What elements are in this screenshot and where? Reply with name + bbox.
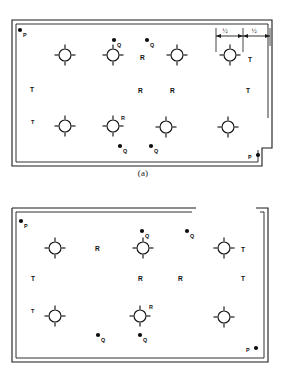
- point-dot-q[interactable]: [112, 38, 116, 42]
- point-label-t: T: [241, 275, 245, 282]
- point-label-t: T: [246, 87, 250, 94]
- panel-a-drawing: ½ ½: [0, 0, 286, 192]
- point-label-r: R: [138, 275, 143, 282]
- sprinkler-row-bottom: [45, 306, 235, 328]
- point-label-q: Q: [154, 148, 158, 154]
- point-label-r: R: [95, 245, 100, 252]
- sprinkler-head[interactable]: [45, 238, 66, 259]
- point-label-q: Q: [143, 337, 147, 343]
- point-dot-q[interactable]: [96, 333, 100, 337]
- point-label-q: Q: [101, 337, 105, 343]
- point-dot-p[interactable]: [256, 153, 260, 157]
- point-label-r: R: [170, 87, 175, 94]
- point-dot-p[interactable]: [18, 28, 22, 32]
- dimension-group: ½ ½: [216, 27, 270, 52]
- point-label-r: R: [138, 87, 143, 94]
- sprinkler-head[interactable]: [133, 238, 154, 259]
- point-label-t: T: [31, 119, 35, 125]
- sprinkler-head[interactable]: [218, 117, 239, 138]
- point-label-q: Q: [117, 42, 121, 48]
- point-label-p: P: [248, 154, 252, 160]
- sprinkler-head[interactable]: [214, 307, 235, 328]
- point-label-q: Q: [123, 148, 127, 154]
- point-label-p: P: [246, 347, 250, 353]
- point-label-q: Q: [145, 233, 149, 239]
- sprinkler-row-bottom: [55, 116, 239, 138]
- point-dot-p[interactable]: [254, 346, 258, 350]
- panel-b-drawing-main: P Q Q R T T R R T T R Q Q P: [0, 190, 286, 384]
- panel-b: P Q Q R T T R R T T R Q Q P (b): [0, 190, 286, 384]
- dimension-label-left: ½: [222, 27, 227, 35]
- panel-a: ½ ½: [0, 0, 286, 192]
- point-dot-q[interactable]: [145, 38, 149, 42]
- point-label-q: Q: [150, 42, 154, 48]
- sprinkler-head[interactable]: [45, 306, 66, 327]
- point-label-q: Q: [190, 233, 194, 239]
- sprinkler-head[interactable]: [214, 238, 235, 259]
- point-labels-a: P Q Q R T T R R T T R Q Q P: [23, 32, 252, 160]
- point-label-t: T: [241, 246, 245, 253]
- point-dot-q[interactable]: [118, 144, 122, 148]
- point-label-t: T: [31, 275, 35, 282]
- point-label-r: R: [149, 304, 153, 310]
- dimension-label-right: ½: [251, 27, 256, 35]
- sprinkler-head[interactable]: [55, 45, 76, 66]
- point-label-r: R: [140, 54, 145, 61]
- point-dot-q[interactable]: [138, 333, 142, 337]
- sprinkler-head[interactable]: [220, 45, 241, 66]
- sprinkler-row-top: [45, 238, 235, 259]
- point-dot-q[interactable]: [185, 229, 189, 233]
- point-label-t: T: [31, 308, 35, 314]
- sprinkler-head[interactable]: [167, 45, 188, 66]
- point-dot-q[interactable]: [149, 144, 153, 148]
- point-label-t: T: [248, 56, 252, 63]
- point-label-r: R: [121, 115, 125, 121]
- point-dot-p[interactable]: [19, 219, 23, 223]
- sprinkler-head[interactable]: [55, 116, 76, 137]
- point-dot-q[interactable]: [140, 229, 144, 233]
- point-label-p: P: [23, 32, 27, 38]
- sprinkler-row-top: [55, 45, 241, 66]
- sprinkler-head[interactable]: [156, 117, 177, 138]
- point-label-p: P: [24, 223, 28, 229]
- sprinkler-head[interactable]: [130, 306, 151, 327]
- panel-a-caption: (a): [0, 168, 286, 178]
- point-label-r: R: [178, 275, 183, 282]
- sprinkler-layout-figure: ½ ½: [0, 0, 286, 384]
- point-label-t: T: [30, 86, 34, 93]
